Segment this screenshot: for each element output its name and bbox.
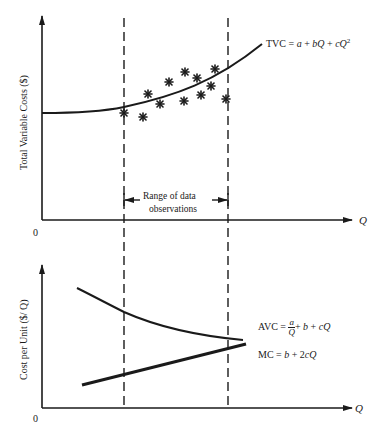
bottom-x-axis-label: Q xyxy=(355,403,363,414)
avc-label: AVC = aQ+ b + cQ xyxy=(258,318,330,337)
bottom-origin-label: 0 xyxy=(33,414,38,424)
avc-curve xyxy=(77,288,243,340)
top-x-axis-label: Q xyxy=(359,215,367,226)
mc-line xyxy=(82,344,246,385)
mc-label: MC = b + 2cQ xyxy=(258,350,317,360)
range-label-line1: Range of data xyxy=(143,192,196,202)
range-label-line2: observations xyxy=(149,205,197,215)
cost-diagram xyxy=(0,0,374,436)
top-origin-label: 0 xyxy=(33,228,38,238)
bottom-y-axis-label: Cost per Unit ($/ Q) xyxy=(18,299,29,380)
tvc-label: TVC = a + bQ + cQ2 xyxy=(266,38,350,49)
top-y-axis-label: Total Variable Costs ($) xyxy=(18,75,29,170)
